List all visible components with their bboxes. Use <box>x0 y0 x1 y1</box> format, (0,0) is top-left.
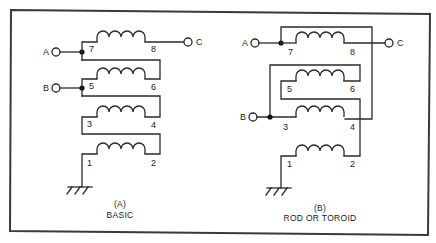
terminal-c-icon <box>184 38 192 46</box>
pin-4-label: 4 <box>151 120 156 130</box>
figure-frame <box>10 10 430 235</box>
winding-7-8-icon <box>296 32 344 43</box>
terminal-b-icon <box>52 84 60 92</box>
junction-dot-icon <box>267 114 272 119</box>
pin-6-label: 6 <box>151 82 156 92</box>
pin-2-label: 2 <box>350 159 355 169</box>
panel-b-rod-or-toroid: A C 7 8 5 6 B 3 4 1 2 <box>240 27 404 223</box>
panel-b-caption-title: ROD OR TOROID <box>283 213 356 223</box>
pin-5-label: 5 <box>287 84 292 94</box>
winding-1-2-icon <box>296 145 344 156</box>
panel-a-basic: A C 7 8 B 5 6 3 4 1 2 <box>43 31 203 220</box>
ground-icon <box>266 188 291 195</box>
pin-2-label: 2 <box>151 158 156 168</box>
panel-a-caption-title: BASIC <box>106 210 133 220</box>
pin-7-label: 7 <box>288 47 293 57</box>
terminal-c-icon <box>385 39 393 47</box>
pin-7-label: 7 <box>89 44 94 54</box>
panel-a-caption-letter: (A) <box>114 199 126 209</box>
pin-1-label: 1 <box>287 159 292 169</box>
pin-3-label: 3 <box>87 119 92 129</box>
pin-6-label: 6 <box>350 84 355 94</box>
pin-8-label: 8 <box>350 47 355 57</box>
winding-5-6-icon <box>97 68 145 79</box>
winding-7-8-icon <box>97 31 145 42</box>
terminal-b-label: B <box>240 112 246 122</box>
pin-1-label: 1 <box>87 158 92 168</box>
transformer-winding-diagram: A C 7 8 B 5 6 3 4 1 2 <box>0 0 436 243</box>
panel-b-caption-letter: (B) <box>314 203 326 213</box>
terminal-b-icon <box>249 113 257 121</box>
pin-3-label: 3 <box>283 122 288 132</box>
terminal-c-label: C <box>397 38 404 48</box>
winding-3-4-icon <box>97 106 145 117</box>
terminal-c-label: C <box>196 37 203 47</box>
ground-icon <box>67 187 92 194</box>
winding-3-4-icon <box>296 106 344 117</box>
terminal-a-label: A <box>43 47 49 57</box>
terminal-a-icon <box>251 39 259 47</box>
pin-5-label: 5 <box>89 81 94 91</box>
terminal-a-icon <box>52 48 60 56</box>
pin-8-label: 8 <box>151 44 156 54</box>
pin-4-label: 4 <box>350 122 355 132</box>
winding-1-2-icon <box>97 143 145 154</box>
winding-5-6-icon <box>296 70 344 81</box>
terminal-a-label: A <box>242 38 248 48</box>
terminal-b-label: B <box>43 83 49 93</box>
